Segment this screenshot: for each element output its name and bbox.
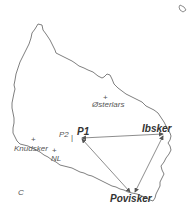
coastline [12,24,171,201]
map-svg [0,0,191,221]
label-p1: P1 [77,127,89,137]
islet [179,5,186,12]
map-canvas: + Østerlars + Knudsker + NL C P2 | P1 Ib… [0,0,191,221]
label-osterlars: Østerlars [92,101,124,109]
label-nl: NL [51,155,61,163]
knudsker-marker: + [31,136,36,144]
label-c: C [18,189,24,197]
route-ibsker-povisker [135,136,163,192]
label-p2: P2 [59,131,69,139]
label-knudsker: Knudsker [14,145,48,153]
route-p1-ibsker [82,134,163,138]
label-ibsker: Ibsker [142,124,171,134]
label-povisker: Povisker [110,194,152,204]
p2-marker: | [71,134,73,142]
route-p1-povisker [82,139,130,192]
